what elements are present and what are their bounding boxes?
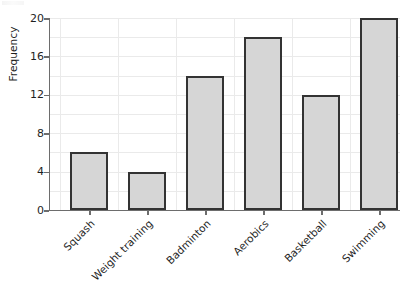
gridline-vertical <box>176 18 177 210</box>
y-tick-mark <box>44 56 49 58</box>
y-tick-label: 0 <box>20 205 44 216</box>
gridline-vertical <box>292 18 293 210</box>
gridline-horizontal <box>50 18 400 19</box>
x-tick-mark <box>379 210 381 215</box>
y-tick-label: 16 <box>20 51 44 62</box>
bar-swimming <box>360 18 398 210</box>
gridline-horizontal <box>50 133 400 134</box>
x-tick-mark <box>205 210 207 215</box>
x-label-squash: Squash <box>0 218 96 288</box>
gridline-horizontal <box>50 76 400 77</box>
y-tick-mark <box>44 95 49 97</box>
gridline-vertical <box>234 18 235 210</box>
y-tick-mark <box>44 210 49 212</box>
y-tick-label: 20 <box>20 13 44 24</box>
x-tick-mark <box>263 210 265 215</box>
x-tick-mark <box>89 210 91 215</box>
bar-basketball <box>302 95 340 210</box>
gridline-vertical <box>118 18 119 210</box>
y-tick-label: 4 <box>20 166 44 177</box>
y-tick-label: 8 <box>20 128 44 139</box>
bar-squash <box>70 152 108 210</box>
plot-area <box>50 18 400 210</box>
gridline-horizontal <box>50 56 400 57</box>
gridline-vertical <box>60 18 61 210</box>
y-tick-mark <box>44 133 49 135</box>
y-tick-label: 12 <box>20 89 44 100</box>
x-tick-mark <box>321 210 323 215</box>
gridline-vertical <box>350 18 351 210</box>
y-tick-mark <box>44 172 49 174</box>
y-axis-tick-labels: 048121620 <box>18 0 44 288</box>
y-tick-mark <box>44 18 49 20</box>
bar-aerobics <box>244 37 282 210</box>
gridline-horizontal <box>50 95 400 96</box>
x-tick-mark <box>147 210 149 215</box>
bar-weight-training <box>128 172 166 210</box>
bar-badminton <box>186 76 224 210</box>
gridline-horizontal <box>50 37 400 38</box>
bar-chart: Frequency 048121620 SquashWeight trainin… <box>0 0 418 288</box>
gridline-horizontal <box>50 114 400 115</box>
